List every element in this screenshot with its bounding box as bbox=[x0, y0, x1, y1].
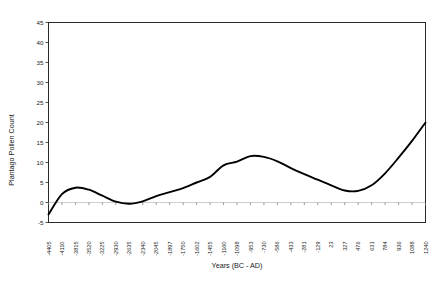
x-axis-ticks: -4405-4110-3815-3520-3225-2930-2635-2340… bbox=[46, 203, 429, 256]
x-tick-label: -281 bbox=[301, 242, 307, 253]
x-tick-label: 23 bbox=[328, 242, 334, 248]
y-tick-label: 15 bbox=[37, 139, 44, 146]
x-tick-label: -586 bbox=[274, 242, 280, 253]
y-tick-label: 10 bbox=[37, 159, 44, 166]
x-tick-label: 784 bbox=[382, 242, 388, 251]
x-tick-label: 327 bbox=[342, 242, 348, 251]
y-tick-label: 30 bbox=[37, 79, 44, 86]
x-tick-label: -2635 bbox=[126, 242, 132, 256]
x-tick-label: -4110 bbox=[59, 242, 65, 256]
y-tick-label: 40 bbox=[37, 39, 44, 46]
x-tick-label: 936 bbox=[396, 242, 402, 251]
x-tick-label: -1602 bbox=[194, 242, 200, 256]
x-tick-label: -3520 bbox=[86, 242, 92, 256]
y-tick-label: 5 bbox=[40, 179, 44, 186]
x-tick-label: 1088 bbox=[409, 242, 415, 254]
y-tick-label: 45 bbox=[37, 19, 44, 26]
x-tick-label: -2930 bbox=[113, 242, 119, 256]
plot-frame bbox=[49, 23, 426, 223]
x-axis-title: Years (BC - AD) bbox=[212, 261, 263, 270]
x-tick-label: -129 bbox=[315, 242, 321, 253]
x-tick-label: -3225 bbox=[99, 242, 105, 256]
y-tick-label: 25 bbox=[37, 99, 44, 106]
y-tick-label: 0 bbox=[40, 199, 44, 206]
x-tick-label: -1098 bbox=[234, 242, 240, 256]
y-tick-label: 20 bbox=[37, 119, 44, 126]
x-tick-label: -3815 bbox=[73, 242, 79, 256]
x-tick-label: -433 bbox=[288, 242, 294, 253]
x-tick-label: -730 bbox=[261, 242, 267, 253]
y-tick-label: -5 bbox=[38, 219, 44, 226]
y-axis-title: Plantago Pollen Count bbox=[7, 114, 16, 186]
x-tick-label: -1750 bbox=[180, 242, 186, 256]
chart-canvas: -5051015202530354045 -4405-4110-3815-352… bbox=[0, 0, 445, 284]
x-tick-label: 1240 bbox=[423, 242, 429, 254]
x-tick-label: 476 bbox=[355, 242, 361, 251]
x-tick-label: -2340 bbox=[140, 242, 146, 256]
y-tick-label: 35 bbox=[37, 59, 44, 66]
x-tick-label: 631 bbox=[369, 242, 375, 251]
y-axis-ticks: -5051015202530354045 bbox=[37, 19, 49, 226]
x-tick-label: -953 bbox=[248, 242, 254, 253]
x-tick-label: -1160 bbox=[221, 242, 227, 256]
data-series-line bbox=[49, 123, 426, 215]
x-tick-label: -2045 bbox=[153, 242, 159, 256]
x-tick-label: -1455 bbox=[207, 242, 213, 256]
x-tick-label: -1897 bbox=[167, 242, 173, 256]
x-tick-label: -4405 bbox=[46, 242, 52, 256]
chart-figure: -5051015202530354045 -4405-4110-3815-352… bbox=[0, 0, 445, 284]
